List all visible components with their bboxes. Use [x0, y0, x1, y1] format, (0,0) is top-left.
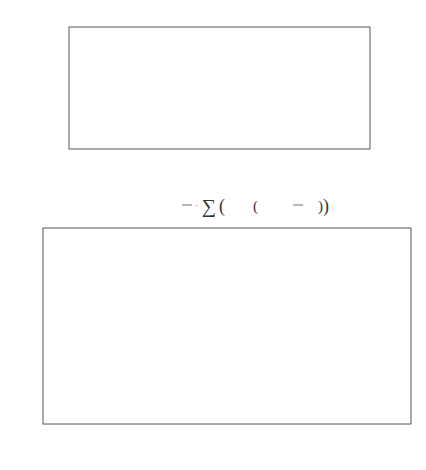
paren-open: (: [219, 196, 225, 217]
top-plot-frame: [69, 27, 370, 149]
sum-symbol: ∑: [202, 195, 216, 218]
top-chart: [69, 27, 370, 149]
svg-text:(: (: [253, 198, 258, 215]
svg-text:·: ·: [195, 200, 198, 210]
dft-formula: · ∑ ( ( ) ): [182, 195, 329, 218]
figure: · ∑ ( ( ) ): [0, 0, 426, 470]
svg-text:): ): [323, 196, 329, 217]
bottom-plot-frame: [43, 228, 411, 424]
